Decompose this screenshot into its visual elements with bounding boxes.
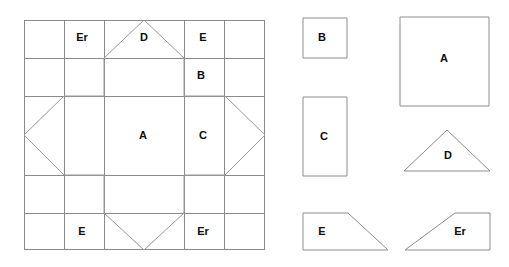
shape-a-label: A bbox=[440, 52, 448, 64]
shape-er-label: Er bbox=[454, 225, 466, 237]
shape-e-label: E bbox=[318, 225, 325, 237]
shape-er-group: Er bbox=[405, 213, 490, 250]
shape-d-label: D bbox=[444, 149, 452, 161]
net-label-e-top: E bbox=[199, 31, 206, 43]
net-label-b: B bbox=[197, 69, 205, 81]
net-label-er-top: Er bbox=[76, 31, 88, 43]
shape-e-group: E bbox=[303, 213, 388, 250]
net-labels: Er D E B A C E Er bbox=[76, 31, 209, 237]
geometry-figure: Cube net and component faces Er D E B bbox=[0, 0, 509, 267]
net-label-e-bottom: E bbox=[78, 225, 85, 237]
shape-b-group: B bbox=[303, 18, 347, 58]
shape-d-group: D bbox=[404, 130, 490, 171]
shape-c-group: C bbox=[303, 97, 347, 176]
shape-a-group: A bbox=[400, 17, 489, 106]
shape-b-label: B bbox=[318, 31, 326, 43]
shape-e-trapezoid bbox=[303, 213, 388, 250]
shape-er-trapezoid bbox=[405, 213, 490, 250]
net-label-er-bottom: Er bbox=[197, 225, 209, 237]
diagram-root: Cube net and component faces Er D E B bbox=[0, 0, 509, 267]
net-label-c: C bbox=[199, 129, 207, 141]
net-label-a: A bbox=[139, 129, 147, 141]
component-shapes-group: B C E A D Er bbox=[303, 17, 490, 250]
net-grid-group: Er D E B A C E Er bbox=[24, 20, 265, 250]
shape-c-label: C bbox=[320, 130, 328, 142]
net-label-d: D bbox=[140, 31, 148, 43]
